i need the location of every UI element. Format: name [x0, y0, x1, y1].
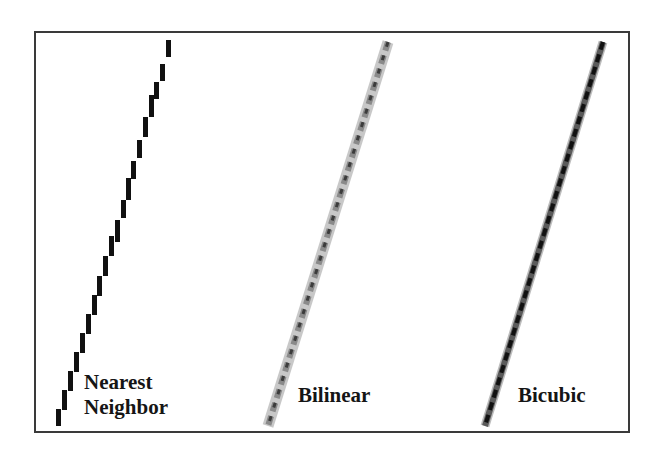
bicubic-line	[485, 42, 603, 426]
nearest-label-line1: Nearest	[84, 370, 168, 395]
nearest-neighbor-label: Nearest Neighbor	[84, 370, 168, 420]
bilinear-line	[268, 42, 388, 426]
bilinear-label: Bilinear	[298, 383, 370, 408]
nearest-neighbor-line	[56, 40, 171, 426]
nearest-label-line2: Neighbor	[84, 395, 168, 420]
bicubic-label: Bicubic	[518, 383, 586, 408]
